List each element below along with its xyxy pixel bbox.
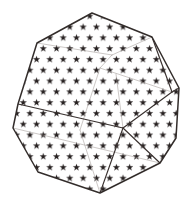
polyhedron-figure	[0, 0, 185, 216]
image-canvas	[0, 0, 185, 216]
star-polyhedron-svg	[0, 0, 185, 216]
